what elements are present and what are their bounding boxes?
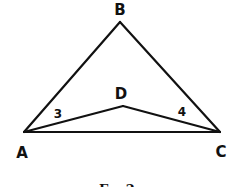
angle-label-3: 3 bbox=[54, 107, 62, 121]
figure-caption: Ex. 2 bbox=[99, 182, 135, 187]
segment-ab bbox=[24, 22, 120, 132]
vertex-label-b: B bbox=[114, 1, 125, 19]
angle-label-4: 4 bbox=[178, 105, 186, 119]
segment-bc bbox=[120, 22, 220, 132]
vertex-label-a: A bbox=[16, 144, 28, 162]
vertex-label-d: D bbox=[115, 85, 127, 103]
segment-dc bbox=[123, 106, 220, 132]
triangle-diagram: B A C D 3 4 Ex. 2 bbox=[0, 0, 235, 187]
vertex-label-c: C bbox=[215, 143, 226, 161]
segment-ad bbox=[24, 106, 123, 132]
